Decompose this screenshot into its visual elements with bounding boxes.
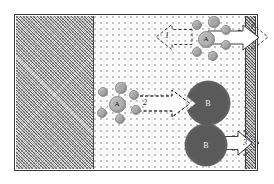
cluster-a-middle-label: A (110, 97, 125, 112)
arrow-2-number: 2 (143, 99, 147, 107)
diagram-canvas: A A B B 1 2 3 (0, 0, 274, 184)
particle-small (208, 16, 219, 27)
arrow-1-out-shape (208, 24, 268, 50)
arrow-2-shape (140, 90, 190, 117)
aggregate-b-middle-shape (187, 81, 230, 125)
arrow-1-number: 1 (165, 32, 169, 40)
arrow-1-shape (156, 25, 192, 50)
cluster-a-middle-core: A (109, 96, 126, 113)
particle-small (221, 40, 231, 50)
arrow-3-number: 3 (243, 139, 247, 147)
particle-small (115, 82, 126, 93)
cluster-a-top-label: A (199, 32, 214, 47)
cluster-a-top-core: A (198, 31, 215, 48)
aggregate-b-bottom-shape (185, 124, 227, 166)
